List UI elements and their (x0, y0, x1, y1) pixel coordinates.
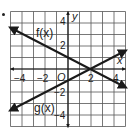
f-label: f(x) (36, 26, 53, 40)
x-tick-2: 2 (88, 73, 94, 84)
y-tick-4: 4 (60, 16, 66, 27)
y-tick-neg4: −4 (54, 110, 66, 121)
origin-label: O (57, 71, 66, 83)
y-tick-2: 2 (60, 40, 66, 51)
x-tick-neg4: −4 (14, 73, 26, 84)
x-tick-neg2: −2 (37, 73, 49, 84)
g-label: g(x) (34, 101, 55, 115)
coordinate-graph: −4 −2 O 2 4 4 2 −2 −4 y x f(x) g(x) (0, 0, 132, 134)
x-axis-label: x (116, 54, 123, 66)
y-tick-neg2: −2 (54, 87, 66, 98)
x-tick-4: 4 (113, 73, 119, 84)
